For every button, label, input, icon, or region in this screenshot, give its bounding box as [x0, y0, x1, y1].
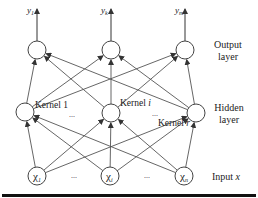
- ellipsis-0: ...: [69, 110, 75, 119]
- output-layer-label-line2: layer: [218, 51, 239, 62]
- input-label-var: x: [235, 171, 241, 182]
- edge-x1-ki: [44, 119, 104, 170]
- connections: [27, 9, 195, 173]
- neural-network-diagram: Output layer Hidden layer Input x y1ykym…: [0, 0, 258, 198]
- edge-x1-k1: [27, 122, 35, 167]
- edge-xn-k1: [34, 116, 175, 173]
- input-label-text: Input: [212, 171, 236, 182]
- hidden-layer-label-line1: Hidden: [214, 102, 243, 113]
- hidden-node-ki: [102, 104, 120, 122]
- edge-kr-ym: [187, 60, 195, 104]
- output-label-ym: ym: [174, 5, 184, 16]
- output-label-y1: y1: [26, 5, 34, 16]
- input-layer-label: Input x: [212, 171, 241, 182]
- hidden-node-k1: [16, 103, 34, 121]
- bottom-rule: [2, 194, 256, 197]
- kernel-label-k1: Kernel 1: [35, 100, 68, 110]
- kernel-label-ki: Kernel i: [120, 98, 151, 108]
- edge-xi-ki: [110, 123, 111, 167]
- edge-k1-y1: [27, 60, 35, 103]
- output-label-yk: yk: [100, 5, 108, 16]
- output-node-y1: [28, 41, 46, 59]
- output-node-yk: [102, 41, 120, 59]
- kernel-label-kr: Kernel r: [158, 118, 190, 128]
- diagram-svg: Output layer Hidden layer Input x y1ykym…: [0, 0, 258, 198]
- output-node-ym: [176, 41, 194, 59]
- hidden-layer-label-line2: layer: [219, 114, 240, 125]
- edge-xi-k1: [33, 118, 103, 171]
- ellipsis-2: ...: [71, 171, 77, 180]
- edge-xn-kr: [186, 123, 194, 167]
- ellipsis-1: ...: [152, 109, 158, 118]
- ellipsis-3: ...: [144, 171, 150, 180]
- output-layer-label-line1: Output: [214, 39, 242, 50]
